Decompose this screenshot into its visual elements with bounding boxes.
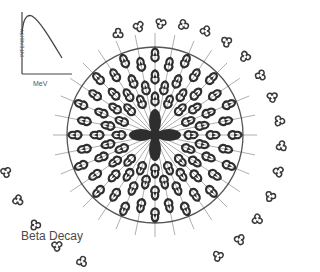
inset-ylabel: INTENSITY: [19, 23, 25, 63]
inset-xlabel: MeV: [33, 80, 47, 87]
beta-decay-diagram: INTENSITY MeV Beta Decay: [0, 0, 320, 272]
spectrum-curve: [22, 16, 62, 58]
diagram-caption: Beta Decay: [21, 229, 83, 243]
inset-plot: [22, 12, 72, 74]
